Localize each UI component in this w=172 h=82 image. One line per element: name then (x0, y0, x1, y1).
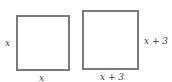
large-square-bottom-label: x + 3 (100, 72, 124, 82)
small-square-side-label: x (5, 38, 10, 48)
large-square (82, 10, 139, 70)
small-square (16, 15, 70, 71)
small-square-bottom-label: x (39, 73, 44, 82)
large-square-side-label: x + 3 (144, 36, 168, 46)
